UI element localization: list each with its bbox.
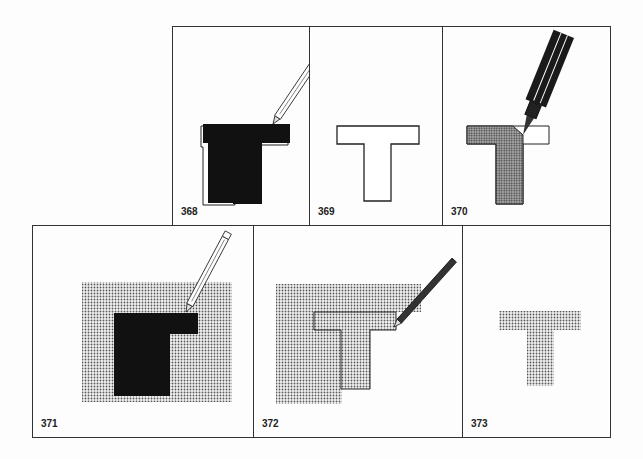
panel-370: 370 [442, 26, 611, 226]
panel-number: 369 [318, 206, 335, 217]
pencil-icon [33, 226, 255, 439]
panel-372: 372 [253, 225, 463, 438]
panel-number: 373 [471, 418, 488, 429]
panel-number: 368 [181, 206, 198, 217]
panel-369: 369 [309, 26, 443, 226]
panel-371: 371 [32, 225, 254, 438]
panel-number: 371 [41, 418, 58, 429]
outline-t-illustration [310, 27, 444, 227]
panel-373: 373 [462, 225, 611, 438]
panel-number: 372 [262, 418, 279, 429]
panel-368: 368 [172, 26, 310, 226]
pencil-icon [254, 226, 464, 439]
panel-number: 370 [451, 206, 468, 217]
marker-pen-icon [443, 27, 612, 227]
tone-t-illustration [463, 226, 612, 439]
